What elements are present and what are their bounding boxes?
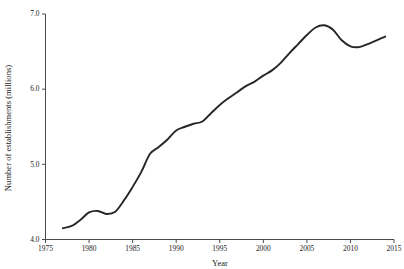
x-axis-ticks: 197519801985199019952000200520102015 bbox=[38, 240, 402, 254]
chart-figure: 4.05.06.07.0 197519801985199019952000200… bbox=[0, 0, 404, 269]
y-tick-label: 6.0 bbox=[30, 84, 40, 93]
y-tick-label: 5.0 bbox=[30, 160, 40, 169]
x-tick-label: 2010 bbox=[343, 244, 358, 253]
x-tick-label: 1975 bbox=[38, 244, 53, 253]
x-tick-label: 1990 bbox=[169, 244, 184, 253]
y-tick-label: 7.0 bbox=[30, 9, 40, 18]
line-chart: 4.05.06.07.0 197519801985199019952000200… bbox=[0, 0, 404, 269]
y-tick-label: 4.0 bbox=[30, 235, 40, 244]
x-tick-label: 1995 bbox=[212, 244, 227, 253]
x-tick-label: 1985 bbox=[125, 244, 140, 253]
x-tick-label: 2000 bbox=[256, 244, 271, 253]
y-axis-ticks: 4.05.06.07.0 bbox=[30, 9, 45, 244]
x-tick-label: 1980 bbox=[82, 244, 97, 253]
x-axis-title: Year bbox=[212, 258, 228, 268]
x-tick-label: 2005 bbox=[299, 244, 314, 253]
data-series-line bbox=[63, 25, 385, 228]
x-tick-label: 2015 bbox=[387, 244, 402, 253]
y-axis-title: Number of establishments (millions) bbox=[3, 65, 13, 191]
